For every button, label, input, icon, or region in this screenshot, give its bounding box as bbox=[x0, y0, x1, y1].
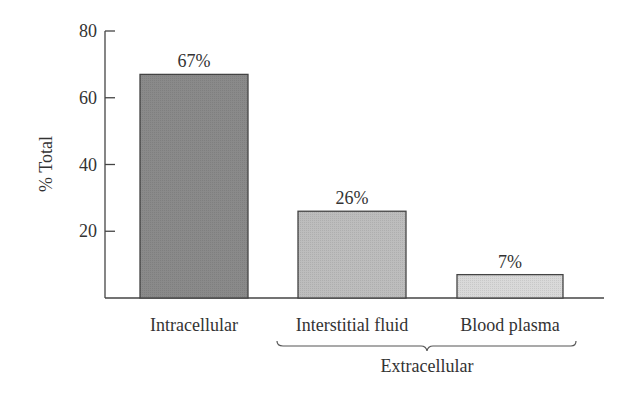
group-label: Extracellular bbox=[381, 356, 474, 376]
y-tick-label: 40 bbox=[79, 155, 97, 175]
bars: 67%Intracellular26%Interstitial fluid7%B… bbox=[140, 51, 563, 335]
data-label: 7% bbox=[498, 252, 522, 272]
data-label: 26% bbox=[336, 188, 369, 208]
bar-interstitial-fluid: 26%Interstitial fluid bbox=[296, 188, 408, 335]
data-label: 67% bbox=[178, 51, 211, 71]
y-tick-label: 80 bbox=[79, 21, 97, 41]
bar-intracellular: 67%Intracellular bbox=[140, 51, 248, 335]
category-label: Blood plasma bbox=[460, 315, 560, 335]
category-label: Interstitial fluid bbox=[296, 315, 408, 335]
chart: 20406080% Total 67%Intracellular26%Inter… bbox=[0, 0, 631, 397]
y-axis-label: % Total bbox=[36, 136, 56, 192]
category-label: Intracellular bbox=[150, 315, 238, 335]
y-tick-label: 60 bbox=[79, 88, 97, 108]
extracellular-brace: Extracellular bbox=[277, 341, 576, 376]
y-tick-label: 20 bbox=[79, 221, 97, 241]
bar-blood-plasma: 7%Blood plasma bbox=[457, 252, 563, 335]
